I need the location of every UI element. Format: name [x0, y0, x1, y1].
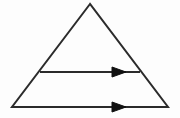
triangle-arrow-diagram: [0, 0, 180, 118]
diagram-canvas: [0, 0, 180, 118]
diagram-background: [0, 0, 180, 118]
